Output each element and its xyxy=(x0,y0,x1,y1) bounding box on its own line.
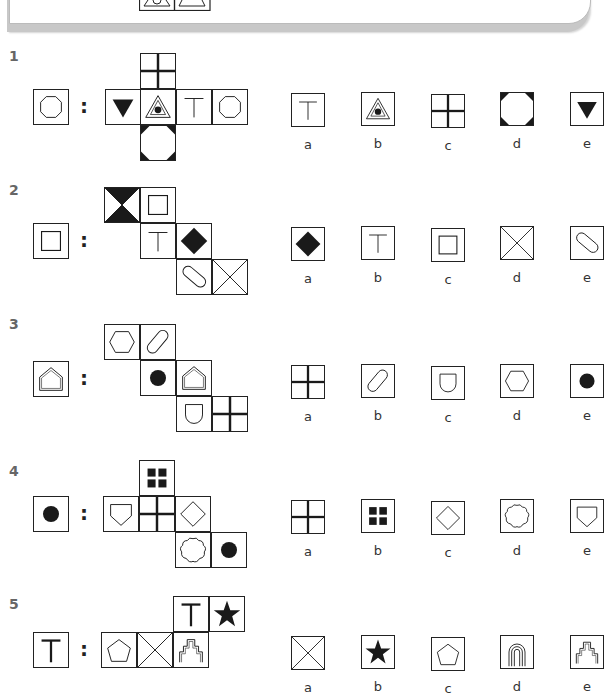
x-cross-icon xyxy=(501,227,533,259)
answer-option-e[interactable] xyxy=(570,364,604,398)
triangle-dot-icon xyxy=(362,93,394,125)
star-filled-icon xyxy=(210,597,244,631)
answer-option-b[interactable] xyxy=(361,226,395,260)
cross-thick-icon xyxy=(140,497,174,531)
question-number: 5 xyxy=(9,596,19,612)
option-label: c xyxy=(431,410,465,425)
ratio-colon: : xyxy=(80,503,88,523)
T-icon xyxy=(362,227,394,259)
answer-option-c[interactable] xyxy=(431,366,465,400)
shield-u-icon xyxy=(177,397,211,431)
square-inset-icon xyxy=(432,229,464,261)
stepped-tower-icon xyxy=(571,636,603,668)
star-filled-icon xyxy=(362,636,394,668)
answer-option-b[interactable] xyxy=(361,635,395,669)
net-face xyxy=(176,360,212,396)
net-face xyxy=(139,496,175,532)
net-face xyxy=(140,89,176,125)
ratio-colon: : xyxy=(80,368,88,388)
net-face xyxy=(140,360,176,396)
answer-option-d[interactable] xyxy=(500,364,534,398)
octagon-icon xyxy=(213,90,247,124)
answer-option-c[interactable] xyxy=(431,637,465,671)
net-face xyxy=(104,187,140,223)
answer-option-d[interactable] xyxy=(500,635,534,669)
answer-option-d[interactable] xyxy=(500,226,534,260)
octagon-black-corners-icon xyxy=(501,93,533,125)
net-face xyxy=(173,596,209,632)
four-squares-icon xyxy=(362,500,394,532)
net-face xyxy=(211,532,247,568)
option-label: e xyxy=(570,543,604,558)
answer-option-a[interactable] xyxy=(291,227,325,261)
cross-thick-icon xyxy=(432,95,464,127)
net-face xyxy=(104,324,140,360)
answer-option-c[interactable] xyxy=(431,228,465,262)
option-label: c xyxy=(431,681,465,696)
capsule-right-icon xyxy=(141,325,175,359)
answer-option-c[interactable] xyxy=(431,94,465,128)
net-face xyxy=(140,53,176,89)
cross-thick-icon xyxy=(141,54,175,88)
answer-option-e[interactable] xyxy=(570,499,604,533)
answer-option-a[interactable] xyxy=(291,500,325,534)
home-plate-icon xyxy=(571,500,603,532)
net-face xyxy=(137,632,173,668)
x-cross-icon xyxy=(213,260,247,294)
capsule-icon xyxy=(571,227,603,259)
option-label: a xyxy=(291,544,325,559)
previous-example-panel xyxy=(9,0,591,24)
net-face xyxy=(176,396,212,432)
diamond-outline-icon xyxy=(176,497,210,531)
shield-u-icon xyxy=(432,367,464,399)
answer-option-b[interactable] xyxy=(361,499,395,533)
example-option-circle-icon xyxy=(302,0,318,8)
option-label: e xyxy=(570,136,604,151)
net-face xyxy=(212,259,248,295)
net-face xyxy=(139,460,175,496)
T-icon xyxy=(177,90,211,124)
target-face xyxy=(33,223,69,259)
option-label: c xyxy=(431,138,465,153)
answer-option-b[interactable] xyxy=(361,92,395,126)
triangle-down-filled-icon xyxy=(106,90,140,124)
wavy-circle-icon xyxy=(501,500,533,532)
net-face xyxy=(212,89,248,125)
question-number: 3 xyxy=(9,316,19,332)
house-pentagon-icon xyxy=(177,361,211,395)
circle-filled-icon xyxy=(34,497,68,531)
answer-option-b[interactable] xyxy=(361,364,395,398)
house-pentagon-icon xyxy=(34,362,68,396)
answer-option-a[interactable] xyxy=(291,93,325,127)
hourglass-black-icon xyxy=(105,188,139,222)
answer-option-a[interactable] xyxy=(291,636,325,670)
pentagon-icon xyxy=(102,633,136,667)
option-label: b xyxy=(361,408,395,423)
answer-option-e[interactable] xyxy=(570,635,604,669)
cross-thick-icon xyxy=(292,501,324,533)
net-face xyxy=(105,89,141,125)
arch-rings-icon xyxy=(501,636,533,668)
answer-option-e[interactable] xyxy=(570,92,604,126)
option-label: a xyxy=(291,409,325,424)
T-bold-icon xyxy=(34,633,68,667)
option-label: a xyxy=(291,680,325,695)
option-label: e xyxy=(570,270,604,285)
net-face xyxy=(140,223,176,259)
answer-option-d[interactable] xyxy=(500,92,534,126)
answer-option-d[interactable] xyxy=(500,499,534,533)
option-label: b xyxy=(361,679,395,694)
answer-option-e[interactable] xyxy=(570,226,604,260)
question-number: 1 xyxy=(9,48,19,64)
circle-filled-icon xyxy=(141,361,175,395)
answer-option-c[interactable] xyxy=(431,501,465,535)
net-face xyxy=(212,396,248,432)
option-label: a xyxy=(291,137,325,152)
option-label: e xyxy=(570,679,604,694)
net-face xyxy=(209,596,245,632)
option-label: c xyxy=(431,272,465,287)
circle-filled-icon xyxy=(571,365,603,397)
cross-thick-icon xyxy=(292,366,324,398)
answer-option-a[interactable] xyxy=(291,365,325,399)
triangle-down-filled-icon xyxy=(571,93,603,125)
